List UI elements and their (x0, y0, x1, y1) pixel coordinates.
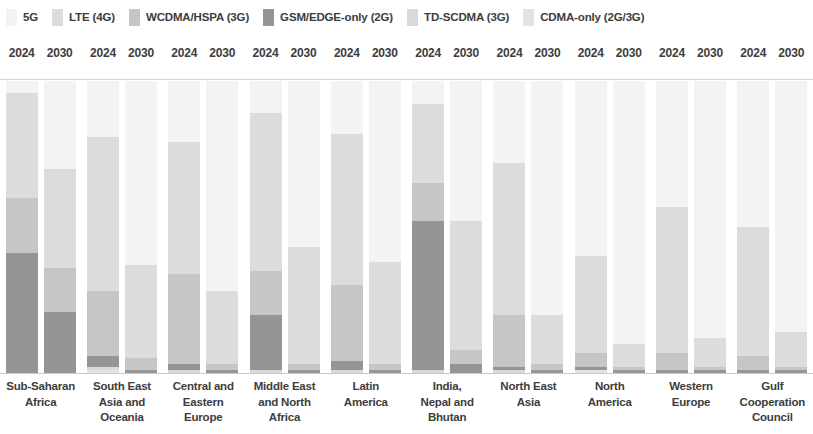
x-axis-label-2: Central andEasternEurope (163, 378, 244, 434)
chart-plot-area (0, 79, 813, 374)
bar-south-east-asia-and-oceania-2030[interactable] (125, 81, 157, 373)
legend-item-0[interactable]: 5G (6, 9, 38, 26)
x-axis-label-line: Nepal and (406, 395, 487, 411)
legend-item-2[interactable]: WCDMA/HSPA (3G) (129, 9, 249, 26)
bar-north-america-2030[interactable] (613, 81, 645, 373)
bar-western-europe-2030[interactable] (694, 81, 726, 373)
bar-segment-wcdma-hspa-3g- (656, 353, 688, 371)
plot-top-rule (0, 79, 813, 80)
bar-india-nepal-and-bhutan-2030[interactable] (450, 81, 482, 373)
year-group-1: 20242030 (81, 40, 162, 66)
legend-swatch-lte (52, 9, 63, 26)
x-axis-label-line: North (569, 379, 650, 395)
bar-segment-5g (737, 81, 769, 227)
bar-segment-lte-4g- (613, 344, 645, 367)
year-label-3-2024: 2024 (250, 46, 282, 60)
x-axis-label-line: Eastern (163, 395, 244, 411)
bar-gulf-cooperation-council-2030[interactable] (775, 81, 807, 373)
region-group-0 (0, 81, 81, 373)
bar-south-east-asia-and-oceania-2024[interactable] (87, 81, 119, 373)
bar-segment-wcdma-hspa-3g- (737, 356, 769, 371)
legend-item-5[interactable]: CDMA-only (2G/3G) (523, 9, 644, 26)
x-axis-label-line: Asia and (81, 395, 162, 411)
bar-segment-5g (775, 81, 807, 332)
bar-segment-lte-4g- (656, 207, 688, 353)
year-label-1-2030: 2030 (125, 46, 157, 60)
bar-segment-5g (331, 81, 363, 134)
bar-segment-5g (493, 81, 525, 163)
legend-item-1[interactable]: LTE (4G) (52, 9, 115, 26)
bar-segment-lte-4g- (694, 338, 726, 367)
year-group-6: 20242030 (488, 40, 569, 66)
x-axis-label-line: Europe (163, 410, 244, 426)
bar-segment-gsm-edge-only-2g- (250, 315, 282, 370)
bar-segment-wcdma-hspa-3g- (450, 350, 482, 365)
bar-segment-lte-4g- (369, 262, 401, 364)
bar-segment-5g (531, 81, 563, 315)
bar-segment-lte-4g- (737, 227, 769, 355)
year-group-7: 20242030 (569, 40, 650, 66)
bar-segment-5g (206, 81, 238, 291)
year-label-4-2030: 2030 (369, 46, 401, 60)
region-group-7 (569, 81, 650, 373)
bar-segment-lte-4g- (493, 163, 525, 315)
x-axis-label-line: Central and (163, 379, 244, 395)
legend-label-3: GSM/EDGE-only (2G) (280, 11, 393, 23)
bar-north-america-2024[interactable] (575, 81, 607, 373)
legend-label-2: WCDMA/HSPA (3G) (146, 11, 249, 23)
x-axis-label-8: WesternEurope (650, 378, 731, 434)
year-label-0-2024: 2024 (6, 46, 38, 60)
bar-segment-lte-4g- (6, 93, 38, 198)
legend-label-0: 5G (23, 11, 38, 23)
bar-gulf-cooperation-council-2024[interactable] (737, 81, 769, 373)
bar-middle-east-and-north-africa-2024[interactable] (250, 81, 282, 373)
x-axis-label-1: South EastAsia andOceania (81, 378, 162, 434)
bar-segment-lte-4g- (87, 137, 119, 292)
bar-north-east-asia-2024[interactable] (493, 81, 525, 373)
year-label-2-2024: 2024 (168, 46, 200, 60)
bar-segment-wcdma-hspa-3g- (168, 274, 200, 365)
bar-segment-5g (613, 81, 645, 344)
bar-india-nepal-and-bhutan-2024[interactable] (412, 81, 444, 373)
bar-sub-saharan-africa-2030[interactable] (44, 81, 76, 373)
year-label-0-2030: 2030 (44, 46, 76, 60)
x-axis-label-line: Sub-Saharan (0, 379, 81, 395)
chart-legend: 5GLTE (4G)WCDMA/HSPA (3G)GSM/EDGE-only (… (0, 0, 813, 34)
x-axis-label-6: North EastAsia (488, 378, 569, 434)
bar-latin-america-2030[interactable] (369, 81, 401, 373)
bar-western-europe-2024[interactable] (656, 81, 688, 373)
bar-segment-lte-4g- (125, 265, 157, 358)
x-axis-label-9: GulfCooperationCouncil (732, 378, 813, 434)
bar-central-and-eastern-europe-2030[interactable] (206, 81, 238, 373)
bar-segment-gsm-edge-only-2g- (331, 361, 363, 370)
bar-segment-gsm-edge-only-2g- (6, 253, 38, 373)
bar-segment-wcdma-hspa-3g- (250, 271, 282, 315)
x-axis-label-line: Council (732, 410, 813, 426)
bar-latin-america-2024[interactable] (331, 81, 363, 373)
bar-sub-saharan-africa-2024[interactable] (6, 81, 38, 373)
x-axis-label-line: Latin (325, 379, 406, 395)
region-group-2 (163, 81, 244, 373)
x-axis-labels: Sub-SaharanAfricaSouth EastAsia andOcean… (0, 378, 813, 434)
bar-middle-east-and-north-africa-2030[interactable] (288, 81, 320, 373)
x-axis-label-line: Western (650, 379, 731, 395)
year-label-5-2024: 2024 (412, 46, 444, 60)
year-label-7-2024: 2024 (575, 46, 607, 60)
region-group-5 (406, 81, 487, 373)
year-label-6-2024: 2024 (493, 46, 525, 60)
x-axis-label-3: Middle Eastand NorthAfrica (244, 378, 325, 434)
bar-segment-lte-4g- (250, 113, 282, 271)
bar-central-and-eastern-europe-2024[interactable] (168, 81, 200, 373)
bar-segment-wcdma-hspa-3g- (87, 291, 119, 355)
legend-item-3[interactable]: GSM/EDGE-only (2G) (263, 9, 393, 26)
year-group-8: 20242030 (650, 40, 731, 66)
bar-segment-5g (288, 81, 320, 247)
bar-segment-lte-4g- (168, 142, 200, 273)
x-axis-label-line: North East (488, 379, 569, 395)
bar-segment-wcdma-hspa-3g- (44, 268, 76, 312)
bar-north-east-asia-2030[interactable] (531, 81, 563, 373)
year-label-9-2030: 2030 (775, 46, 807, 60)
legend-item-4[interactable]: TD-SCDMA (3G) (407, 9, 509, 26)
x-axis-label-line: Middle East (244, 379, 325, 395)
bar-segment-5g (369, 81, 401, 262)
